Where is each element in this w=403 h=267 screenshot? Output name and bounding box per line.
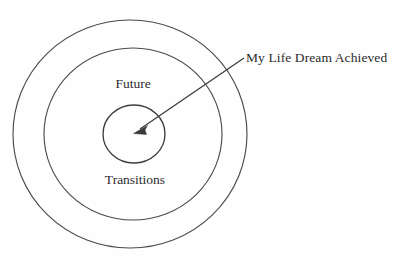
callout-label-my-life-dream-achieved: My Life Dream Achieved	[246, 51, 387, 65]
middle-ring-circle	[44, 48, 222, 220]
ring-label-future: Future	[0, 77, 266, 91]
inner-circle	[103, 105, 165, 163]
callout-arrow	[134, 58, 245, 135]
ring-label-transitions: Transitions	[0, 173, 270, 187]
callout-arrow-line	[140, 58, 244, 129]
concentric-circles-diagram	[0, 0, 403, 267]
outer-ring-circle	[13, 20, 247, 248]
diagram-canvas: Future Transitions My Life Dream Achieve…	[0, 0, 403, 267]
callout-arrow-head	[134, 126, 148, 135]
